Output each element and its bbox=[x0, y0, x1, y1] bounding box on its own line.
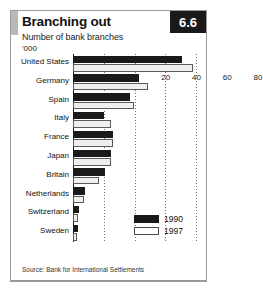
chart-figure: 6.6 Branching out Number of bank branche… bbox=[10, 10, 207, 282]
bar-row: Italy bbox=[73, 110, 196, 130]
category-label: Sweden bbox=[40, 226, 69, 235]
category-label: Netherlands bbox=[26, 189, 69, 198]
bar-1997 bbox=[73, 139, 113, 147]
category-label: United States bbox=[21, 57, 69, 66]
bar-1990 bbox=[73, 56, 182, 64]
legend-item: 1990 bbox=[134, 214, 206, 224]
category-label: Spain bbox=[49, 95, 69, 104]
chart-title: Branching out bbox=[22, 14, 111, 29]
chart-subtitle: Number of bank branches bbox=[22, 32, 123, 42]
bar-row: France bbox=[73, 129, 196, 149]
legend-swatch-1990 bbox=[134, 215, 159, 223]
bar-1990 bbox=[73, 168, 105, 176]
bar-1997 bbox=[73, 158, 111, 166]
bar-1997 bbox=[73, 233, 77, 241]
bar-1990 bbox=[73, 74, 139, 82]
category-label: Italy bbox=[54, 113, 69, 122]
legend-label: 1997 bbox=[164, 226, 183, 236]
bar-1997 bbox=[73, 83, 148, 91]
bar-1997 bbox=[73, 214, 78, 222]
bar-1990 bbox=[73, 225, 78, 233]
source-note: Source: Bank for International Settlemen… bbox=[22, 266, 144, 273]
category-label: Japan bbox=[47, 151, 69, 160]
bar-1997 bbox=[73, 102, 134, 110]
bar-1990 bbox=[73, 206, 79, 214]
bar-1990 bbox=[73, 112, 104, 120]
legend-label: 1990 bbox=[164, 214, 183, 224]
footer-rule bbox=[11, 280, 206, 281]
bar-1997 bbox=[73, 64, 193, 72]
units-label: '000 bbox=[22, 44, 37, 53]
category-label: Britain bbox=[46, 170, 69, 179]
bar-1990 bbox=[73, 131, 113, 139]
bar-row: Japan bbox=[73, 148, 196, 168]
bar-1990 bbox=[73, 187, 85, 195]
accent-bar bbox=[11, 11, 18, 35]
bar-1990 bbox=[73, 93, 130, 101]
bar-row: Netherlands bbox=[73, 186, 196, 206]
bar-row: Britain bbox=[73, 167, 196, 187]
bar-row: Germany bbox=[73, 73, 196, 93]
bar-1997 bbox=[73, 120, 111, 128]
chart-legend: 19901997 bbox=[134, 214, 206, 238]
figure-number-badge: 6.6 bbox=[170, 11, 206, 33]
category-label: Switzerland bbox=[28, 207, 69, 216]
legend-item: 1997 bbox=[134, 226, 206, 236]
plot-area: 020406080 United StatesGermanySpainItaly… bbox=[73, 42, 196, 242]
bar-1997 bbox=[73, 196, 84, 204]
legend-swatch-1997 bbox=[134, 227, 159, 235]
bar-1997 bbox=[73, 177, 99, 185]
category-label: Germany bbox=[36, 76, 69, 85]
bar-row: Spain bbox=[73, 92, 196, 112]
bar-row: United States bbox=[73, 54, 196, 74]
bar-1990 bbox=[73, 150, 111, 158]
category-label: France bbox=[44, 132, 69, 141]
